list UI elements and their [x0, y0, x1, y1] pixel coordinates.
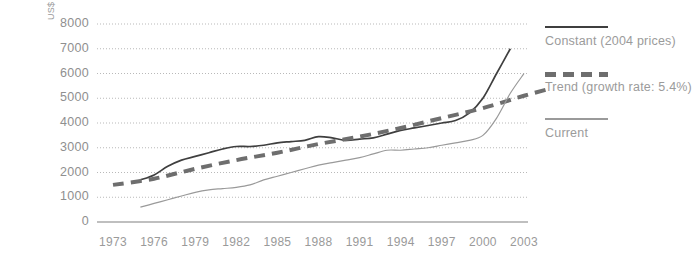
- series-line-1: [113, 88, 551, 185]
- legend-swatch-0: [545, 26, 608, 28]
- legend-label-2: Current: [545, 126, 588, 140]
- legend-swatch-2: [545, 118, 608, 120]
- legend-label-1: Trend (growth rate: 5.4%): [545, 80, 692, 94]
- legend-swatch-1: [545, 72, 608, 77]
- chart-container: US$ million 0100020003000400050006000700…: [0, 0, 696, 267]
- legend-label-0: Constant (2004 prices): [545, 34, 676, 48]
